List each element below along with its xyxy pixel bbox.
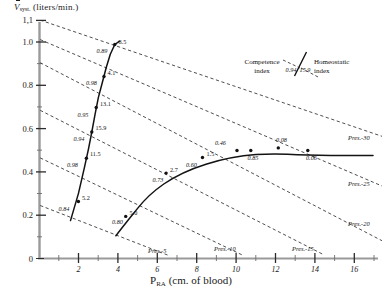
competence-index-label: 0.46 <box>215 139 227 146</box>
y-tick-label: 1.0 <box>22 37 33 47</box>
data-point <box>90 130 93 133</box>
data-point <box>113 43 116 46</box>
data-point <box>102 75 105 78</box>
cardiac-output-curve <box>116 154 373 236</box>
y-axis-tick-labels: 0 0.2 0.4 0.6 0.8 1.0 1,1 <box>22 15 33 263</box>
isopleth-label-pres-25: Pres.-25 <box>347 180 370 187</box>
x-tick-label: 10 <box>232 265 240 274</box>
data-point <box>124 215 127 218</box>
homeostatic-index-legend-value: 15.9 <box>300 66 311 73</box>
data-point <box>235 149 238 152</box>
y-axis-label-subscript: syst. <box>20 6 31 12</box>
x-tick-label: 14 <box>311 265 319 274</box>
isopleth-line-pres-15 <box>40 110 323 254</box>
chart-figure: Vsyst. (liters/min.) 0 0.2 <box>0 0 382 295</box>
isopleth-label-pres-15: Pres.-15 <box>291 245 314 252</box>
data-point <box>277 146 280 149</box>
y-axis-label-symbol: V <box>14 2 20 12</box>
x-axis-tick-labels: 2 4 6 8 10 12 14 16 <box>77 265 359 274</box>
homeostatic-index-legend-line1: Homeostatic <box>314 58 349 66</box>
y-tick-label: 0.4 <box>22 167 33 177</box>
y-axis-label: Vsyst. (liters/min.) <box>14 2 78 12</box>
legend-group: Competence index 0.94 15.9 Homeostatic i… <box>245 52 350 78</box>
competence-index-label: 0.06 <box>306 154 318 161</box>
data-point <box>201 156 204 159</box>
point-value-label: 13.1 <box>100 100 111 107</box>
homeostatic-index-legend-line2: index <box>314 67 330 75</box>
point-value-label: 8.5 <box>119 38 127 45</box>
competence-index-label: 0.94 <box>74 135 85 142</box>
y-axis-ticks <box>36 20 46 258</box>
isopleth-label-pres-10: Pres.-10 <box>213 245 236 252</box>
point-value-label: 4.1 <box>108 69 116 76</box>
y-tick-label: 0.8 <box>22 80 33 90</box>
y-tick-label: 0.2 <box>22 210 33 220</box>
competence-index-label: 0.98 <box>67 161 79 168</box>
flat-curve-index-labels: 0.80 0.73 0.60 0.46 0.85 0.08 0.06 <box>112 136 318 225</box>
competence-index-label: 0.08 <box>276 136 288 143</box>
competence-index-label: 0.84 <box>59 205 70 212</box>
x-tick-label: 2 <box>77 265 81 274</box>
competence-index-label: 0.73 <box>153 176 164 183</box>
competence-index-legend-line2: index <box>254 67 270 75</box>
isopleth-labels-group: Pres.-5 Pres.-10 Pres.-15 Pres.-20 Pres.… <box>147 134 370 254</box>
x-tick-label: 4 <box>116 265 120 274</box>
x-axis-label: PRA (cm. of blood) <box>0 274 382 288</box>
data-point <box>77 200 80 203</box>
point-value-label: 5.2 <box>82 194 90 201</box>
data-point <box>95 106 98 109</box>
competence-index-label: 0.89 <box>97 47 108 54</box>
competence-index-label: 0.60 <box>186 161 198 168</box>
point-value-label: 1.5 <box>207 150 215 157</box>
x-tick-label: 8 <box>195 265 199 274</box>
competence-index-legend-value: 0.94 <box>286 66 297 73</box>
data-point <box>249 149 252 152</box>
y-tick-label: 1,1 <box>22 15 33 25</box>
x-tick-label: 6 <box>155 265 159 274</box>
data-point <box>306 149 309 152</box>
x-axis-label-subscript: RA <box>156 280 166 288</box>
point-value-label: 2.7 <box>170 166 178 173</box>
x-tick-label: 12 <box>272 265 280 274</box>
competence-index-label: 0.80 <box>112 218 124 225</box>
flat-curve-point-value-labels: 5.0 2.7 1.5 <box>130 150 215 216</box>
steep-curve-point-value-labels: 8.5 4.1 13.1 15.9 11.5 5.2 <box>82 38 126 201</box>
point-value-label: 5.0 <box>130 209 138 216</box>
steep-curve-markers <box>77 43 117 203</box>
competence-index-label: 0.95 <box>78 111 89 118</box>
competence-index-label: 0.85 <box>248 154 259 161</box>
competence-index-legend-line1: Competence <box>245 58 280 66</box>
isopleth-label-pres-5: Pres.-5 <box>147 247 166 254</box>
data-point <box>85 157 88 160</box>
isopleth-line-pres-10 <box>40 158 243 255</box>
y-tick-label: 0 <box>29 254 33 264</box>
competence-index-label: 0.98 <box>86 79 98 86</box>
point-value-label: 15.9 <box>96 124 107 131</box>
isopleth-label-pres-20: Pres.-20 <box>347 220 370 227</box>
x-axis-label-units: (cm. of blood) <box>166 274 232 286</box>
data-point <box>164 171 167 174</box>
x-tick-label: 16 <box>350 265 358 274</box>
y-axis-label-units: (liters/min.) <box>31 2 79 12</box>
chart-canvas: 0 0.2 0.4 0.6 0.8 1.0 1,1 <box>0 0 382 295</box>
isopleth-lines-group <box>40 20 382 256</box>
y-tick-label: 0.6 <box>22 124 33 134</box>
point-value-label: 11.5 <box>90 150 101 157</box>
isopleth-label-pres-30: Pres.-30 <box>347 134 370 141</box>
